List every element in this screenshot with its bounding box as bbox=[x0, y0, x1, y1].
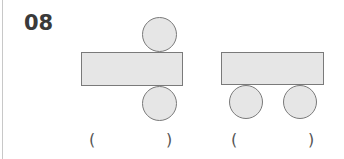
answer-1-close-paren: ) bbox=[166, 130, 172, 149]
bottom-left-circle bbox=[229, 85, 263, 119]
bottom-right-circle bbox=[283, 85, 317, 119]
answer-2-open-paren: ( bbox=[231, 130, 237, 149]
bottom-circle bbox=[142, 86, 177, 121]
answer-2-close-paren: ) bbox=[308, 130, 314, 149]
answer-1-open-paren: ( bbox=[89, 130, 95, 149]
question-number: 08 bbox=[24, 11, 53, 35]
rectangle bbox=[221, 52, 324, 85]
rectangle bbox=[81, 52, 183, 86]
top-circle bbox=[142, 17, 177, 52]
page-left-border bbox=[2, 0, 3, 159]
